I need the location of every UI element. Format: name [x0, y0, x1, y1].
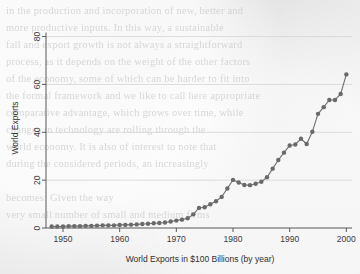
y-axis-tick-labels: 020406080: [32, 32, 42, 231]
data-point: [231, 178, 235, 182]
data-point: [253, 182, 257, 186]
x-tick-label: 1970: [167, 234, 186, 244]
data-point: [123, 223, 127, 227]
data-point: [83, 224, 87, 228]
data-point: [310, 130, 314, 134]
x-tick-label: 1990: [280, 234, 299, 244]
x-axis-ticks: [63, 228, 346, 232]
y-tick-label: 60: [32, 79, 42, 89]
data-point: [55, 224, 59, 228]
plot-area: 020406080 195019601970198019902000 World…: [0, 0, 360, 274]
data-point: [72, 224, 76, 228]
data-point: [265, 175, 269, 179]
data-point: [287, 143, 291, 147]
series-markers-world-exports: [49, 72, 348, 229]
data-point: [134, 222, 138, 226]
data-point: [61, 224, 65, 228]
data-point: [304, 142, 308, 146]
data-point: [202, 205, 206, 209]
y-tick-label: 80: [32, 32, 42, 42]
world-exports-line-chart: 020406080 195019601970198019902000 World…: [0, 0, 360, 274]
data-point: [78, 224, 82, 228]
data-point: [100, 223, 104, 227]
data-point: [276, 158, 280, 162]
data-point: [129, 222, 133, 226]
data-point: [117, 223, 121, 227]
data-point: [146, 221, 150, 225]
data-point: [225, 186, 229, 190]
data-point: [344, 72, 348, 76]
data-point: [248, 183, 252, 187]
data-point: [208, 202, 212, 206]
data-point: [282, 150, 286, 154]
y-tick-label: 0: [32, 225, 42, 230]
data-point: [236, 180, 240, 184]
data-point: [214, 199, 218, 203]
y-tick-label: 20: [32, 175, 42, 185]
data-point: [219, 195, 223, 199]
chart-page: in the production and incorporation of n…: [0, 0, 360, 274]
data-point: [168, 219, 172, 223]
y-tick-label: 40: [32, 127, 42, 137]
data-point: [299, 137, 303, 141]
data-point: [112, 223, 116, 227]
data-point: [191, 212, 195, 216]
gridlines: [46, 37, 352, 181]
data-point: [270, 166, 274, 170]
data-point: [151, 221, 155, 225]
data-point: [333, 98, 337, 102]
x-tick-label: 1960: [110, 234, 129, 244]
data-point: [197, 206, 201, 210]
data-point: [180, 217, 184, 221]
x-tick-label: 1950: [54, 234, 73, 244]
axes: [46, 33, 352, 228]
data-point: [242, 183, 246, 187]
x-tick-label: 2000: [337, 234, 356, 244]
data-point: [327, 98, 331, 102]
data-point: [157, 221, 161, 225]
data-point: [66, 224, 70, 228]
data-point: [321, 105, 325, 109]
data-point: [185, 216, 189, 220]
y-axis-title: World Exports: [10, 101, 20, 154]
x-axis-tick-labels: 195019601970198019902000: [54, 234, 357, 244]
data-point: [140, 222, 144, 226]
data-point: [163, 220, 167, 224]
data-point: [316, 112, 320, 116]
x-tick-label: 1980: [224, 234, 243, 244]
data-point: [89, 224, 93, 228]
data-point: [293, 142, 297, 146]
y-axis-ticks: [42, 37, 46, 228]
data-point: [338, 92, 342, 96]
series-line-world-exports: [52, 74, 347, 226]
x-axis-title: World Exports in $100 Billions (by year): [126, 254, 275, 264]
data-point: [174, 218, 178, 222]
data-point: [259, 180, 263, 184]
data-point: [106, 223, 110, 227]
data-point: [95, 223, 99, 227]
data-point: [49, 224, 53, 228]
